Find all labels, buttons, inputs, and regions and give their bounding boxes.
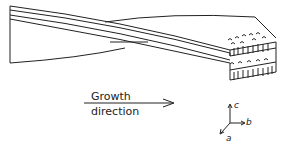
- growth-label-line2: direction: [91, 106, 139, 118]
- growth-label-line1: Growth: [91, 91, 131, 103]
- axis-b-label: b: [246, 117, 252, 127]
- ribbon-bottom-edge: [10, 48, 125, 63]
- ribbon-right-top-bevel: [255, 17, 276, 38]
- twisted-ribbon-drawing: [0, 0, 286, 150]
- ribbon-top-edge: [105, 15, 255, 22]
- axis-a-label: a: [226, 133, 232, 143]
- axis-c-label: c: [234, 100, 239, 110]
- crystal-axes: [220, 104, 245, 134]
